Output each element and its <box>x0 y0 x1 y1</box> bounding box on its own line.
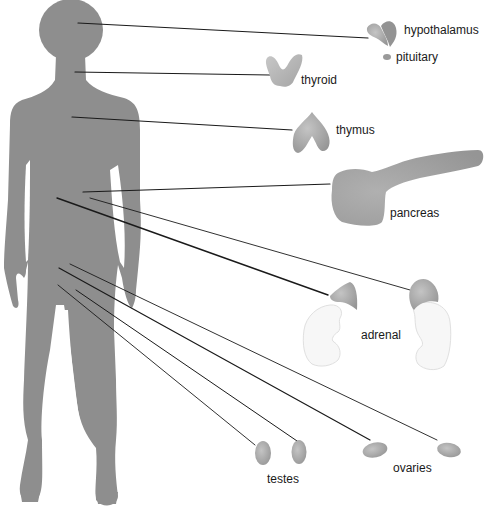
testis-left <box>255 441 271 465</box>
adrenal-right <box>409 279 451 370</box>
leader-line-thyroid <box>75 72 270 75</box>
label-pancreas: pancreas <box>390 206 439 220</box>
silhouette-feet <box>20 490 118 504</box>
human-silhouette <box>4 0 141 506</box>
pituitary-gland <box>383 54 391 60</box>
hypothalamus-gland <box>367 21 397 47</box>
adrenal-left <box>303 282 357 366</box>
label-thyroid: thyroid <box>301 73 337 87</box>
glands <box>255 21 483 465</box>
label-testes: testes <box>267 472 299 486</box>
thyroid-gland <box>266 54 302 87</box>
label-pituitary: pituitary <box>396 50 438 64</box>
leader-line-ovary-right <box>70 264 437 440</box>
kidney-right <box>413 302 451 369</box>
silhouette-body <box>4 55 141 506</box>
ovary-left <box>361 440 389 460</box>
label-hypothalamus: hypothalamus <box>404 23 479 37</box>
label-thymus: thymus <box>336 123 375 137</box>
silhouette-head <box>39 0 103 61</box>
leader-line-hypothalamus <box>78 23 368 38</box>
endocrine-diagram <box>0 0 493 510</box>
thymus-gland <box>293 112 330 153</box>
label-adrenal: adrenal <box>361 328 401 342</box>
ovary-right <box>436 441 462 459</box>
label-ovaries: ovaries <box>393 461 432 475</box>
testis-right <box>292 440 307 464</box>
kidney-left <box>303 305 341 366</box>
